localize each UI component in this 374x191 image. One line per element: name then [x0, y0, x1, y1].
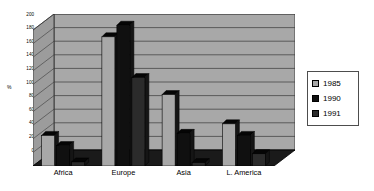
- bar: [252, 150, 269, 166]
- legend-label: 1991: [323, 109, 341, 118]
- bar: [102, 33, 119, 166]
- bar: [177, 129, 194, 166]
- x-axis-category-labels: AfricaEuropeAsiaL. America: [33, 168, 313, 182]
- legend-swatch-icon: [312, 110, 319, 117]
- y-axis-tick-labels: 020406080100120140160180200: [12, 0, 34, 191]
- bar: [132, 74, 149, 166]
- legend-swatch-icon: [312, 80, 319, 87]
- plot-svg: [33, 14, 295, 166]
- y-axis-title: %: [7, 84, 11, 90]
- bar: [237, 131, 254, 166]
- bar: [57, 142, 74, 166]
- legend-item: 1985: [312, 76, 358, 91]
- x-axis-category-label: Africa: [54, 168, 73, 177]
- bar: [222, 120, 239, 166]
- bar: [162, 91, 179, 166]
- legend-swatch-icon: [312, 95, 319, 102]
- legend-label: 1985: [323, 79, 341, 88]
- x-axis-category-label: Asia: [176, 168, 190, 177]
- legend-label: 1990: [323, 94, 341, 103]
- bar-chart: % 020406080100120140160180200 AfricaEuro…: [0, 0, 374, 191]
- bar: [72, 158, 89, 166]
- x-axis-category-label: L. America: [226, 168, 261, 177]
- bar: [117, 21, 134, 166]
- plot-area: [33, 14, 295, 166]
- bar: [192, 159, 209, 166]
- x-axis-category-label: Europe: [111, 168, 135, 177]
- chart-legend: 198519901991: [307, 71, 359, 126]
- legend-item: 1991: [312, 106, 358, 121]
- legend-item: 1990: [312, 91, 358, 106]
- bar: [42, 131, 59, 166]
